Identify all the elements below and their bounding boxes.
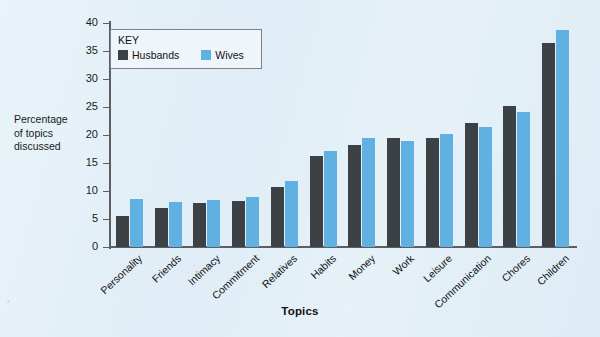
bar-husbands-relatives <box>271 187 284 247</box>
legend-entries: Husbands Wives <box>118 49 254 61</box>
y-tick-label: 20 <box>68 128 98 140</box>
bar-wives-relatives <box>285 181 298 247</box>
bar-husbands-leisure <box>426 138 439 247</box>
legend-label-husbands: Husbands <box>132 49 179 61</box>
chart-legend: KEY Husbands Wives <box>110 29 262 69</box>
bar-group <box>387 23 414 247</box>
legend-label-wives: Wives <box>215 49 244 61</box>
y-tick-mark <box>103 23 109 24</box>
bar-husbands-communication <box>465 123 478 247</box>
y-tick-label: 40 <box>68 16 98 28</box>
bar-group <box>542 23 569 247</box>
y-tick-mark <box>103 247 109 248</box>
bar-wives-habits <box>324 151 337 247</box>
scan-speck <box>7 300 10 303</box>
y-tick-mark <box>103 135 109 136</box>
bar-wives-chores <box>517 112 530 247</box>
bar-group <box>310 23 337 247</box>
bar-wives-intimacy <box>207 200 220 247</box>
bar-wives-personality <box>130 199 143 247</box>
legend-swatch-husbands <box>118 50 128 60</box>
bar-husbands-commitment <box>232 201 245 247</box>
bar-group <box>348 23 375 247</box>
bar-wives-money <box>362 138 375 247</box>
bar-wives-leisure <box>440 134 453 247</box>
y-tick-mark <box>103 191 109 192</box>
bar-group <box>465 23 492 247</box>
y-tick-mark <box>103 51 109 52</box>
y-axis-title-line-3: discussed <box>14 140 92 154</box>
y-tick-mark <box>103 163 109 164</box>
y-tick-mark <box>103 219 109 220</box>
bar-husbands-work <box>387 138 400 247</box>
x-axis-title: Topics <box>0 305 600 317</box>
y-tick-label: 5 <box>68 212 98 224</box>
bar-group <box>271 23 298 247</box>
y-tick-label: 35 <box>68 44 98 56</box>
bar-husbands-money <box>348 145 361 247</box>
legend-title: KEY <box>118 34 254 46</box>
bar-group <box>426 23 453 247</box>
y-tick-label: 10 <box>68 184 98 196</box>
y-axis-title-line-1: Percentage <box>14 113 92 127</box>
y-tick-label: 30 <box>68 72 98 84</box>
bar-husbands-intimacy <box>193 203 206 247</box>
bar-husbands-children <box>542 43 555 247</box>
bar-group <box>503 23 530 247</box>
y-tick-label: 0 <box>68 240 98 252</box>
bar-wives-children <box>556 30 569 247</box>
bar-husbands-habits <box>310 156 323 247</box>
bar-wives-commitment <box>246 197 259 247</box>
bar-husbands-chores <box>503 106 516 247</box>
bar-husbands-friends <box>155 208 168 247</box>
y-tick-label: 15 <box>68 156 98 168</box>
y-tick-label: 25 <box>68 100 98 112</box>
bar-husbands-personality <box>116 216 129 247</box>
y-tick-mark <box>103 107 109 108</box>
y-tick-mark <box>103 79 109 80</box>
bar-wives-work <box>401 141 414 247</box>
bar-wives-friends <box>169 202 182 247</box>
legend-swatch-wives <box>201 50 211 60</box>
bar-wives-communication <box>479 127 492 247</box>
